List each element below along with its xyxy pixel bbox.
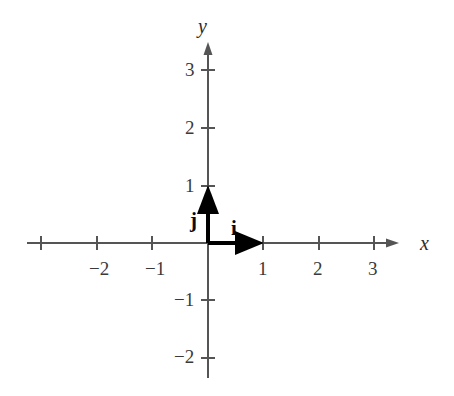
coordinate-plane-svg [0,0,454,396]
y-tick-label-neg1: −1 [174,290,194,309]
x-tick-label-neg1: −1 [145,259,165,278]
x-tick-label-2: 2 [313,259,323,278]
vector-j-arrowhead [197,185,219,214]
y-axis-arrowhead [204,42,213,55]
y-tick-label-2: 2 [185,118,195,137]
x-tick-label-1: 1 [258,259,268,278]
x-tick-label-neg2: −2 [89,259,109,278]
y-tick-label-1: 1 [185,176,195,195]
x-axis-label: x [420,233,429,253]
y-tick-label-3: 3 [185,60,195,79]
vector-j-label: j [190,210,197,231]
vector-i-arrowhead [235,231,264,255]
y-tick-label-neg2: −2 [174,347,194,366]
y-axis-label: y [198,16,207,36]
vector-i-label: i [231,218,237,239]
vector-j [197,185,219,243]
x-tick-label-3: 3 [368,259,378,278]
vector-plot-figure: x y −2 −1 1 2 3 3 2 1 −1 −2 i j [0,0,454,396]
x-axis-arrowhead [386,239,399,248]
